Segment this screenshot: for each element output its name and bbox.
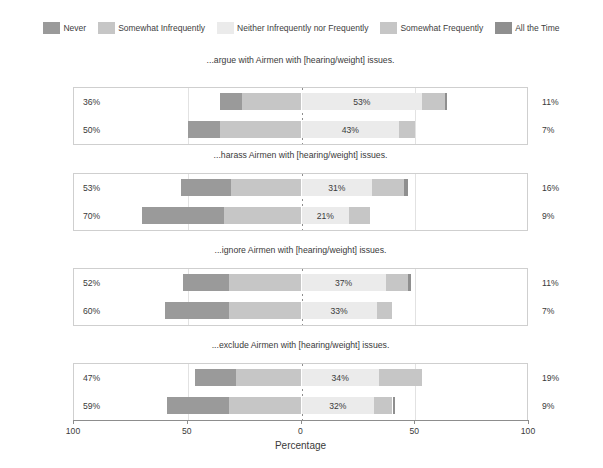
value-label-mid: 43% (342, 116, 359, 144)
value-label-left: 52% (83, 269, 100, 297)
value-label-left: 36% (83, 88, 100, 116)
panel-title: ...harass Airmen with [hearing/weight] i… (73, 150, 528, 161)
axis-tick (73, 420, 74, 424)
legend-swatch-all-the-time (495, 22, 512, 34)
panel-plot-area: Weight47%34%19%Hearing59%32%9% (73, 363, 528, 421)
bar-segment-somewhat-infrequently[interactable] (229, 274, 302, 291)
bar-segment-never[interactable] (165, 302, 229, 319)
bar-segment-never[interactable] (183, 274, 229, 291)
value-label-mid: 31% (328, 174, 345, 202)
bar-segment-somewhat-infrequently[interactable] (224, 207, 301, 224)
bar-segment-somewhat-frequently[interactable] (377, 302, 393, 319)
value-label-mid: 37% (335, 269, 352, 297)
panel-plot-area: Weight36%53%11%Hearing50%43%7% (73, 87, 528, 145)
value-label-right: 11% (542, 269, 602, 297)
value-label-mid: 34% (332, 364, 349, 392)
bar-segment-somewhat-frequently[interactable] (386, 274, 409, 291)
axis-title: Percentage (73, 440, 528, 451)
panel-plot-area: Weight52%37%11%Hearing60%33%7% (73, 268, 528, 326)
legend-item-1[interactable]: Somewhat Infrequently (98, 22, 205, 34)
value-label-left: 53% (83, 174, 100, 202)
bar-segment-somewhat-frequently[interactable] (374, 397, 392, 414)
value-label-right: 16% (542, 174, 602, 202)
value-label-left: 47% (83, 364, 100, 392)
axis-tick (301, 420, 302, 424)
value-label-mid: 21% (317, 202, 334, 230)
value-label-right: 9% (542, 202, 602, 230)
table-row[interactable]: Hearing59%32%9% (74, 392, 527, 420)
axis-tick-label: 50 (182, 426, 192, 436)
legend-label: Somewhat Frequently (400, 23, 483, 33)
legend-label: All the Time (515, 23, 559, 33)
panel-title: ...ignore Airmen with [hearing/weight] i… (73, 245, 528, 256)
legend-label: Somewhat Infrequently (118, 23, 205, 33)
bar-segment-all-the-time[interactable] (408, 274, 410, 291)
panel-title: ...argue with Airmen with [hearing/weigh… (73, 55, 528, 66)
table-row[interactable]: Weight52%37%11% (74, 269, 527, 297)
bar-segment-somewhat-infrequently[interactable] (220, 121, 302, 138)
bar-segment-somewhat-infrequently[interactable] (229, 302, 302, 319)
bar-segment-never[interactable] (142, 207, 224, 224)
bar-segment-never[interactable] (188, 121, 220, 138)
bar-segment-somewhat-infrequently[interactable] (231, 179, 302, 196)
value-label-left: 60% (83, 297, 100, 325)
legend-swatch-never (43, 22, 60, 34)
table-row[interactable]: Weight36%53%11% (74, 88, 527, 116)
axis-tick-label: 100 (66, 426, 80, 436)
legend-item-3[interactable]: Somewhat Frequently (380, 22, 483, 34)
table-row[interactable]: Weight53%31%16% (74, 174, 527, 202)
chart-legend: NeverSomewhat InfrequentlyNeither Infreq… (0, 22, 603, 34)
table-row[interactable]: Hearing50%43%7% (74, 116, 527, 144)
value-label-right: 7% (542, 116, 602, 144)
bar-segment-never[interactable] (181, 179, 231, 196)
bar-segment-somewhat-frequently[interactable] (399, 121, 415, 138)
legend-swatch-somewhat-frequently (380, 22, 397, 34)
bar-segment-all-the-time[interactable] (393, 397, 395, 414)
legend-item-0[interactable]: Never (43, 22, 86, 34)
bar-segment-never[interactable] (220, 93, 243, 110)
likert-chart: NeverSomewhat InfrequentlyNeither Infreq… (0, 0, 603, 468)
legend-item-2[interactable]: Neither Infrequently nor Frequently (217, 22, 368, 34)
value-label-right: 11% (542, 88, 602, 116)
axis-tick-label: 100 (521, 426, 535, 436)
bar-segment-somewhat-frequently[interactable] (372, 179, 404, 196)
bar-segment-somewhat-frequently[interactable] (349, 207, 369, 224)
value-label-mid: 53% (353, 88, 370, 116)
value-label-right: 19% (542, 364, 602, 392)
value-label-right: 9% (542, 392, 602, 420)
table-row[interactable]: Hearing70%21%9% (74, 202, 527, 230)
legend-label: Never (63, 23, 86, 33)
legend-label: Neither Infrequently nor Frequently (237, 23, 368, 33)
axis-tick (528, 420, 529, 424)
value-label-right: 7% (542, 297, 602, 325)
bar-segment-somewhat-infrequently[interactable] (242, 93, 301, 110)
value-label-mid: 32% (329, 392, 346, 420)
bar-segment-somewhat-frequently[interactable] (379, 369, 422, 386)
axis-tick (187, 420, 188, 424)
axis-tick-label: 50 (409, 426, 419, 436)
panel-title: ...exclude Airmen with [hearing/weight] … (73, 340, 528, 351)
table-row[interactable]: Hearing60%33%7% (74, 297, 527, 325)
bar-segment-somewhat-infrequently[interactable] (229, 397, 302, 414)
panel-plot-area: Weight53%31%16%Hearing70%21%9% (73, 173, 528, 231)
value-label-left: 70% (83, 202, 100, 230)
bar-segment-never[interactable] (167, 397, 228, 414)
value-label-left: 50% (83, 116, 100, 144)
table-row[interactable]: Weight47%34%19% (74, 364, 527, 392)
bar-segment-never[interactable] (195, 369, 236, 386)
value-label-left: 59% (83, 392, 100, 420)
legend-swatch-somewhat-infrequently (98, 22, 115, 34)
bar-segment-somewhat-frequently[interactable] (422, 93, 445, 110)
axis-tick-label: 0 (298, 426, 303, 436)
legend-swatch-neither (217, 22, 234, 34)
bar-segment-all-the-time[interactable] (404, 179, 409, 196)
bar-segment-all-the-time[interactable] (445, 93, 447, 110)
value-label-mid: 33% (330, 297, 347, 325)
legend-item-4[interactable]: All the Time (495, 22, 559, 34)
axis-tick (414, 420, 415, 424)
bar-segment-somewhat-infrequently[interactable] (236, 369, 302, 386)
